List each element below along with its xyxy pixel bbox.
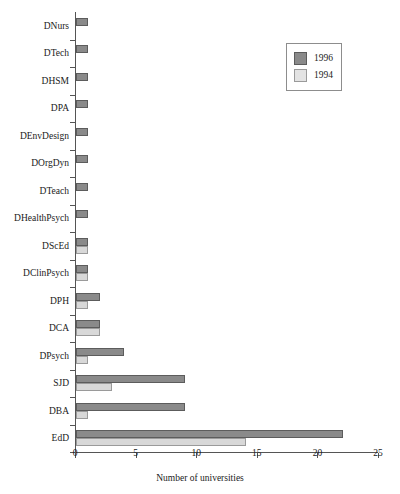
y-axis-tick	[70, 232, 75, 233]
y-axis-category-label: SJD	[53, 378, 69, 388]
bar-1994	[76, 356, 88, 364]
y-axis-tick	[70, 177, 75, 178]
legend-label-1996: 1996	[314, 54, 333, 64]
y-axis-tick	[70, 425, 75, 426]
y-axis-tick	[70, 67, 75, 68]
y-axis-tick	[70, 315, 75, 316]
bar-1996	[76, 348, 124, 356]
y-axis-category-label: DBA	[49, 406, 69, 416]
bar-1994	[76, 246, 88, 254]
bar-1996	[76, 238, 88, 246]
y-axis-category-label: DOrgDyn	[31, 158, 69, 168]
y-axis-category-label: DPA	[51, 103, 69, 113]
bar-1996	[76, 293, 100, 301]
y-axis-tick	[70, 287, 75, 288]
y-axis-category-label: DClinPsych	[23, 268, 69, 278]
y-axis-tick	[70, 205, 75, 206]
y-axis-category-label: DHealthPsych	[14, 213, 69, 223]
y-axis-category-label: DScEd	[42, 241, 69, 251]
y-axis-tick	[70, 150, 75, 151]
legend-entry-1994: 1994	[294, 67, 333, 84]
bar-1996	[76, 45, 88, 53]
bar-1996	[76, 320, 100, 328]
y-axis-category-label: DCA	[49, 323, 69, 333]
bar-1994	[76, 438, 246, 446]
x-axis-tick-label: 15	[252, 448, 262, 458]
bar-chart: DNursDTechDHSMDPADEnvDesignDOrgDynDTeach…	[0, 0, 400, 494]
y-axis-category-label: DHSM	[42, 76, 69, 86]
bar-1994	[76, 301, 88, 309]
bar-1994	[76, 411, 88, 419]
chart-legend: 1996 1994	[286, 43, 342, 91]
x-axis-tick-label: 20	[313, 448, 323, 458]
x-axis-tick-label: 5	[133, 448, 138, 458]
bar-1996	[76, 375, 185, 383]
y-axis-tick	[70, 397, 75, 398]
x-axis-tick-label: 25	[373, 448, 383, 458]
bar-1996	[76, 265, 88, 273]
y-axis-tick	[70, 370, 75, 371]
y-axis-tick	[70, 95, 75, 96]
bar-1994	[76, 273, 88, 281]
y-axis-tick	[70, 40, 75, 41]
y-axis-tick	[70, 260, 75, 261]
legend-swatch-1994	[294, 69, 307, 82]
x-axis-tick-label: 10	[191, 448, 201, 458]
y-axis-category-label: DNurs	[44, 21, 69, 31]
bar-1996	[76, 100, 88, 108]
bar-1996	[76, 403, 185, 411]
x-axis-tick-label: 0	[73, 448, 78, 458]
bar-1996	[76, 430, 343, 438]
bar-1996	[76, 73, 88, 81]
y-axis-category-label: DEnvDesign	[20, 131, 69, 141]
x-axis-title: Number of universities	[0, 473, 400, 483]
x-axis-line	[75, 452, 378, 453]
legend-label-1994: 1994	[314, 71, 333, 81]
bar-1996	[76, 18, 88, 26]
bar-1994	[76, 328, 100, 336]
y-axis-category-label: DTeach	[40, 186, 69, 196]
y-axis-category-label: DPsych	[39, 351, 69, 361]
bar-1996	[76, 155, 88, 163]
legend-swatch-1996	[294, 52, 307, 65]
y-axis-tick	[70, 122, 75, 123]
y-axis-tick	[70, 342, 75, 343]
bar-1996	[76, 210, 88, 218]
y-axis-category-label: DTech	[44, 48, 69, 58]
bar-1996	[76, 128, 88, 136]
bar-1996	[76, 183, 88, 191]
legend-entry-1996: 1996	[294, 50, 333, 67]
y-axis-category-label: DPH	[50, 296, 69, 306]
bar-1994	[76, 383, 112, 391]
y-axis-category-label: EdD	[52, 433, 69, 443]
